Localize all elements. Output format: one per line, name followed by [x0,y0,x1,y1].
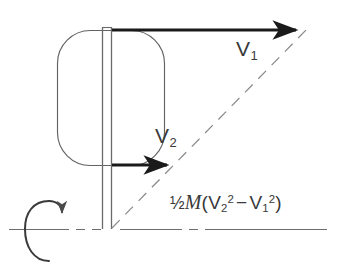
kinetic-energy-formula: ½M(V22−V12) [170,193,282,215]
formula-term2-base: V [249,192,262,213]
formula-close-paren: ) [275,192,282,213]
label-v1-base: V [236,37,251,60]
label-v2-subscript: 2 [170,135,177,150]
label-v1: V1 [236,38,258,62]
spin-arrowhead [49,201,62,212]
rotation-shaft [103,27,112,229]
formula-term1-base: V [208,192,221,213]
label-v1-subscript: 1 [251,48,258,63]
figure-canvas: V1 V2 ½M(V22−V12) [0,0,345,269]
formula-mass-symbol: M [185,191,202,213]
formula-fraction: ½ [170,193,185,213]
rotation-direction-arrow [25,201,62,261]
formula-operator: − [234,192,249,213]
label-v2-base: V [155,124,170,147]
spin-arc [25,201,49,261]
label-v2: V2 [155,125,177,149]
